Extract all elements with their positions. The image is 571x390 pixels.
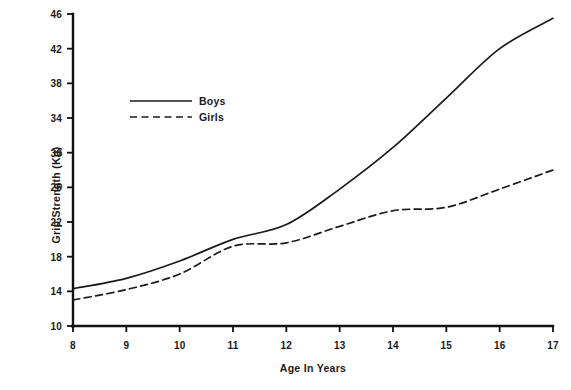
x-axis-tick-label: 9	[123, 340, 129, 351]
series-line-girls	[73, 170, 553, 300]
chart-plot-area	[0, 0, 571, 390]
y-axis-tick-label: 10	[30, 321, 62, 332]
y-axis-tick-label: 42	[30, 43, 62, 54]
x-axis-tick-label: 15	[441, 340, 453, 351]
x-axis-tick-label: 10	[174, 340, 186, 351]
x-axis-tick-label: 14	[387, 340, 399, 351]
x-axis-tick-label: 8	[70, 340, 76, 351]
y-axis-tick-label: 34	[30, 113, 62, 124]
x-axis-title: Age In Years	[280, 362, 346, 374]
legend-label-girls: Girls	[199, 111, 224, 123]
x-axis-tick-label: 13	[334, 340, 346, 351]
y-axis-tick-label: 14	[30, 286, 62, 297]
y-axis-tick-label: 38	[30, 78, 62, 89]
y-axis-tick-label: 18	[30, 251, 62, 262]
grip-strength-line-chart: 10141822263034384246 891011121314151617 …	[0, 0, 571, 390]
y-axis-tick-label: 46	[30, 9, 62, 20]
x-axis-tick-label: 16	[494, 340, 506, 351]
legend-label-boys: Boys	[199, 95, 225, 107]
x-axis-tick-label: 12	[281, 340, 293, 351]
series-line-boys	[73, 18, 553, 288]
y-axis-title: Grip Strength (Kg)	[50, 147, 62, 244]
x-axis-tick-label: 17	[547, 340, 559, 351]
x-axis-tick-label: 11	[228, 340, 239, 351]
